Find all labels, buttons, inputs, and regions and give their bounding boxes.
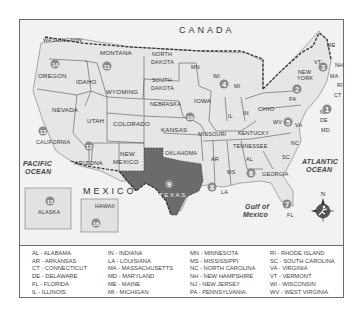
legend-column-4: RI - RHODE ISLAND SC - SOUTH CAROLINA VA…	[270, 250, 335, 296]
state-alaska: ALASKA	[38, 209, 60, 215]
legend-item: AL - ALABAMA	[32, 250, 87, 258]
state-ohio: OHIO	[258, 105, 275, 112]
legend-item: MS - MISSISSIPPI	[190, 258, 255, 266]
label-mexico: MEXICO	[83, 186, 137, 196]
state-south-dakota-2: DAKOTA	[151, 85, 174, 91]
label-pacific-1: PACIFIC	[23, 160, 53, 167]
state-mn: MN	[191, 64, 200, 70]
legend-item: VA - VIRGINIA	[270, 265, 335, 273]
state-kentucky: KENTUCKY	[238, 130, 269, 136]
marker-14: 14	[51, 60, 60, 69]
legend-item: DE - DELAWARE	[32, 273, 87, 281]
state-california: CALIFORNIA	[36, 139, 71, 145]
state-ri: RI	[337, 82, 343, 88]
svg-text:5: 5	[286, 118, 290, 127]
state-md: MD	[321, 127, 330, 133]
map-frame: CANADA MEXICO PACIFIC OCEAN ATLANTIC OCE…	[19, 19, 344, 298]
state-ma: MA	[330, 73, 339, 79]
legend-item: LA - LOUISIANA	[108, 258, 173, 266]
marker-11: 11	[103, 62, 112, 71]
state-ct: CT	[334, 92, 342, 98]
legend-item: WV - WEST VIRGINIA	[270, 289, 335, 297]
svg-text:15: 15	[47, 199, 54, 205]
label-gulf-2: Mexico	[243, 211, 268, 218]
state-new-york-2: YORK	[297, 75, 313, 81]
state-colorado: COLORADO	[113, 120, 150, 127]
svg-text:N: N	[320, 190, 325, 198]
us-map: CANADA MEXICO PACIFIC OCEAN ATLANTIC OCE…	[20, 20, 343, 245]
state-washington: WASHINGTON	[43, 37, 82, 43]
state-ms: MS	[227, 169, 236, 175]
state-missouri: MISSOURI	[198, 131, 226, 137]
legend-item: WI - WISCONSIN	[270, 281, 335, 289]
state-tennessee: TENNESSEE	[233, 143, 268, 149]
legend-item: MN - MINNESOTA	[190, 250, 255, 258]
state-de: DE	[320, 117, 328, 123]
legend-item: SC - SOUTH CAROLINA	[270, 258, 335, 266]
legend-item: NJ - NEW JERSEY	[190, 281, 255, 289]
legend-column-2: IN - INDIANA LA - LOUISIANA MA - MASSACH…	[108, 250, 173, 296]
state-nevada: NEVADA	[52, 106, 79, 113]
legend-item: MA - MASSACHUSETTS	[108, 265, 173, 273]
state-oklahoma: OKLAHOMA	[165, 150, 197, 156]
label-pacific-2: OCEAN	[25, 168, 52, 175]
marker-13: 13	[39, 127, 48, 136]
svg-text:9: 9	[167, 180, 171, 189]
legend-item: IL - ILLINOIS	[32, 289, 87, 297]
state-fl: FL	[287, 212, 294, 218]
marker-9: 9	[165, 180, 174, 189]
legend-item: NC - NORTH CAROLINA	[190, 265, 255, 273]
label-gulf-1: Gulf of	[245, 203, 269, 210]
marker-5: 5	[284, 118, 293, 127]
svg-text:1: 1	[325, 105, 329, 114]
legend-item: ME - MAINE	[108, 281, 173, 289]
marker-2: 2	[293, 85, 302, 94]
state-wv: WV	[273, 119, 282, 125]
label-atlantic-2: OCEAN	[306, 166, 333, 173]
state-wyoming: WYOMING	[106, 88, 138, 95]
state-wi: WI	[213, 73, 220, 79]
marker-12: 12	[85, 142, 94, 151]
legend-item: MD - MARYLAND	[108, 273, 173, 281]
legend-item: IN - INDIANA	[108, 250, 173, 258]
state-kansas: KANSAS	[161, 126, 187, 133]
state-north-dakota-1: NORTH	[152, 51, 172, 57]
state-mi: MI	[234, 83, 240, 89]
svg-text:6: 6	[249, 169, 253, 178]
legend-item: NH - NEW HAMPSHIRE	[190, 273, 255, 281]
legend-item: CT - CONNECTICUT	[32, 265, 87, 273]
state-iowa: IOWA	[194, 97, 212, 104]
state-utah: UTAH	[87, 117, 104, 124]
state-al: AL	[246, 156, 253, 162]
state-south-dakota-1: SOUTH	[152, 77, 172, 83]
legend-item: FL - FLORIDA	[32, 281, 87, 289]
legend-item: RI - RHODE ISLAND	[270, 250, 335, 258]
marker-16: 16	[92, 219, 101, 228]
marker-10: 10	[186, 113, 195, 122]
marker-8: 8	[208, 183, 217, 192]
state-arizona: ARIZONA	[74, 159, 104, 166]
state-nc: NC	[291, 140, 299, 146]
svg-text:7: 7	[285, 200, 289, 209]
state-oregon: OREGON	[38, 72, 67, 79]
state-nebraska: NEBRASKA	[150, 101, 181, 107]
svg-text:12: 12	[86, 144, 93, 150]
label-atlantic-1: ATLANTIC	[301, 158, 339, 165]
legend-item: PA - PENNSYLVANIA	[190, 289, 255, 297]
legend-column-3: MN - MINNESOTA MS - MISSISSIPPI NC - NOR…	[190, 250, 255, 296]
label-canada: CANADA	[179, 25, 235, 35]
state-hawaii: HAWAII	[95, 203, 115, 209]
state-il: IL	[228, 113, 233, 119]
marker-15: 15	[46, 197, 55, 206]
state-montana: MONTANA	[100, 49, 133, 56]
legend-item: AR - ARKANSAS	[32, 258, 87, 266]
state-north-dakota-2: DAKOTA	[151, 59, 174, 65]
state-in: IN	[243, 110, 249, 116]
state-nh: NH	[335, 62, 343, 68]
marker-4: 4	[220, 80, 229, 89]
marker-1: 1	[323, 105, 332, 114]
state-idaho: IDAHO	[76, 78, 97, 85]
svg-text:2: 2	[295, 85, 299, 94]
legend-item: VT - VERMONT	[270, 273, 335, 281]
svg-text:3: 3	[321, 63, 325, 72]
